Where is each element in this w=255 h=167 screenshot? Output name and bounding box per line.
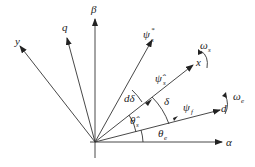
psi-s-hat-sub: s — [163, 79, 166, 87]
psi-s-star-vector — [95, 40, 152, 142]
omega-s-arc — [201, 51, 207, 68]
omega-s-label: ω — [200, 39, 208, 51]
d-label: d — [221, 102, 227, 114]
psi-s-star-sub: s — [151, 36, 154, 44]
q-label: q — [62, 21, 68, 33]
psi-f-label: ψ — [183, 101, 190, 113]
theta-e-arc — [141, 130, 143, 142]
theta-e-sub: e — [164, 134, 167, 142]
y-axis — [20, 46, 95, 142]
omega-e-label: ω — [233, 90, 241, 102]
q-axis — [67, 38, 95, 142]
d-delta-label: dδ — [124, 92, 136, 104]
psi-s-star-sup: * — [151, 26, 155, 34]
theta-s-sub: s — [136, 121, 139, 129]
y-label: y — [14, 35, 20, 47]
delta-label: δ — [164, 95, 170, 107]
x-label: x — [195, 56, 201, 68]
omega-e-sub: e — [241, 97, 244, 105]
psi-s-star-label: ψ — [143, 28, 150, 40]
vector-diagram: β α q y ψ * s ψ̂ s x ω s ψ f d ω e dδ δ … — [0, 0, 255, 167]
omega-s-sub: s — [208, 46, 211, 54]
beta-label: β — [90, 3, 97, 15]
psi-f-sub: f — [191, 108, 194, 116]
x-axis — [95, 65, 193, 142]
alpha-label: α — [226, 136, 232, 148]
